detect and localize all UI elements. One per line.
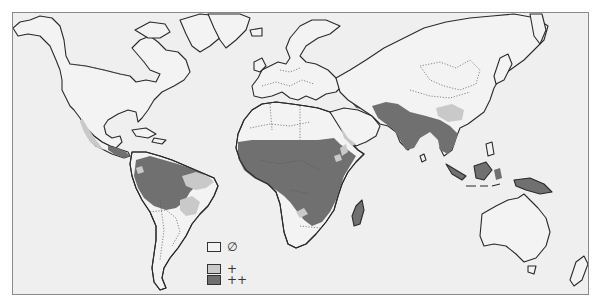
legend-swatch-none [207, 242, 221, 252]
legend-item-high: ++ [207, 275, 247, 285]
southeast-asia-islands [446, 142, 552, 194]
legend-label-none: ∅ [227, 242, 237, 252]
world-map [0, 0, 598, 303]
europe [250, 20, 344, 100]
australia [480, 194, 588, 286]
legend-swatch-high [207, 275, 221, 285]
legend-item-none: ∅ [207, 242, 237, 252]
north-america [13, 14, 250, 148]
legend-swatch-low [207, 264, 221, 274]
south-america [130, 152, 218, 290]
legend-label-high: ++ [227, 275, 247, 285]
